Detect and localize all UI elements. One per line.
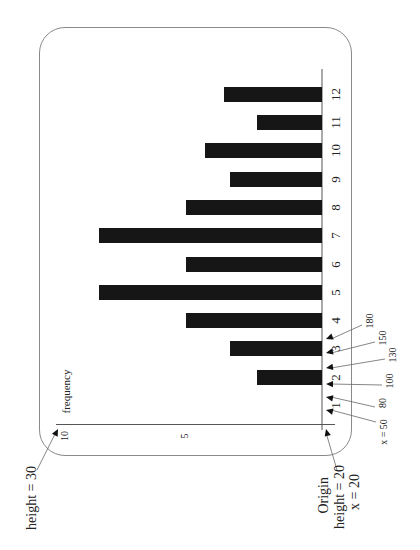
bar-9 xyxy=(230,172,322,187)
x-annotation-label: 150 xyxy=(378,327,388,349)
category-label-10: 10 xyxy=(329,141,342,161)
x-annotation-label: x = 50 xyxy=(379,412,389,452)
bar-8 xyxy=(186,200,322,215)
tick-label-5: 5 xyxy=(180,431,190,441)
x-annotation-label: 100 xyxy=(385,370,395,392)
bar-10 xyxy=(205,143,322,158)
bar-7 xyxy=(99,228,322,243)
tick-label-10: 10 xyxy=(60,428,70,444)
bar-4 xyxy=(186,313,322,328)
bar-6 xyxy=(186,257,322,272)
category-label-12: 12 xyxy=(329,84,342,104)
category-label-1: 1 xyxy=(329,396,342,416)
x-annotation-label: 80 xyxy=(378,395,388,411)
frequency-axis-label: frequency xyxy=(61,366,72,418)
category-label-3: 3 xyxy=(329,339,342,359)
bar-11 xyxy=(257,115,322,130)
category-label-5: 5 xyxy=(329,282,342,302)
axes-and-arrows xyxy=(0,0,420,550)
category-label-4: 4 xyxy=(329,311,342,331)
category-label-2: 2 xyxy=(329,367,342,387)
bar-2 xyxy=(257,370,322,385)
category-label-11: 11 xyxy=(329,113,342,133)
diagram-stage: 123456789101112 frequency 10 5 height = … xyxy=(0,0,420,550)
annotation-origin-height: height = 20 xyxy=(333,465,347,541)
annotation-height-30: height = 30 xyxy=(25,458,39,538)
category-label-9: 9 xyxy=(329,169,342,189)
height-30-arrow-icon xyxy=(52,429,58,437)
origin-arrow-icon xyxy=(325,429,331,437)
annotation-origin-x: x = 20 xyxy=(348,474,362,532)
category-label-7: 7 xyxy=(329,226,342,246)
category-label-6: 6 xyxy=(329,254,342,274)
x-annotation-label: 180 xyxy=(365,310,375,332)
height-30-leader-line xyxy=(37,432,56,470)
bar-12 xyxy=(224,87,322,102)
annotation-origin: Origin xyxy=(317,477,331,529)
bar-5 xyxy=(99,285,322,300)
bar-3 xyxy=(230,341,322,356)
category-label-8: 8 xyxy=(329,197,342,217)
x-annotation-label: 130 xyxy=(388,344,398,366)
